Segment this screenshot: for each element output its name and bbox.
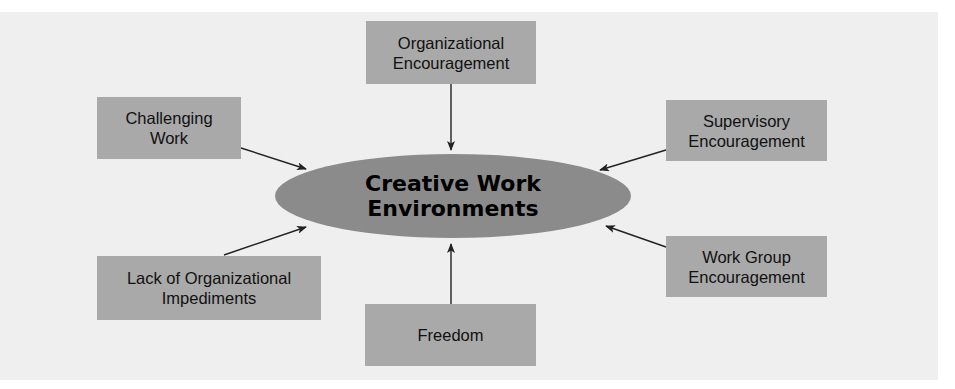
center-node-creative-work-environments: Creative Work Environments bbox=[275, 154, 631, 238]
center-node-line1: Creative Work bbox=[365, 171, 541, 196]
node-work-group-encouragement: Work Group Encouragement bbox=[666, 236, 827, 297]
node-supervisory-encouragement: Supervisory Encouragement bbox=[666, 100, 827, 161]
node-label-line1: Supervisory bbox=[688, 111, 805, 131]
node-label-line1: Challenging bbox=[125, 108, 212, 128]
node-label-line2: Encouragement bbox=[393, 53, 510, 73]
node-label-line1: Lack of Organizational bbox=[127, 268, 291, 288]
node-label-line2: Impediments bbox=[127, 288, 291, 308]
node-label-line1: Work Group bbox=[688, 247, 805, 267]
node-label-line2: Encouragement bbox=[688, 131, 805, 151]
node-label-line2: Work bbox=[125, 128, 212, 148]
node-organizational-encouragement: Organizational Encouragement bbox=[366, 21, 536, 84]
node-freedom: Freedom bbox=[365, 304, 536, 366]
node-label-line2: Encouragement bbox=[688, 267, 805, 287]
node-challenging-work: Challenging Work bbox=[97, 97, 241, 159]
node-label-line1: Freedom bbox=[417, 325, 483, 345]
node-label-line1: Organizational bbox=[393, 33, 510, 53]
node-lack-of-organizational-impediments: Lack of Organizational Impediments bbox=[97, 256, 321, 320]
center-node-line2: Environments bbox=[367, 196, 538, 221]
